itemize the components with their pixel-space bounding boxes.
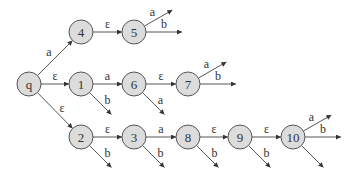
- transition-edge: a: [93, 69, 122, 84]
- state-label: 3: [131, 130, 138, 145]
- state-label: 10: [287, 130, 300, 145]
- edge-label: a: [150, 5, 156, 19]
- edge-label: a: [309, 110, 315, 124]
- state-node-3: 3: [122, 125, 146, 149]
- state-label: 6: [131, 77, 138, 92]
- state-node-7: 7: [176, 72, 200, 96]
- transition-edge: b: [200, 69, 236, 84]
- transition-edge: b: [248, 145, 270, 167]
- edge-label: ε: [52, 69, 57, 83]
- transition-edge: ε: [200, 122, 228, 137]
- state-label: 7: [185, 77, 192, 92]
- transition-edge: ε: [146, 69, 176, 84]
- state-node-6: 6: [122, 72, 146, 96]
- transition-edge: ε: [252, 122, 281, 137]
- transition-edge: a: [198, 57, 226, 78]
- state-label: 4: [78, 25, 85, 40]
- edge-label: b: [157, 146, 163, 160]
- transition-edge: b: [142, 145, 164, 167]
- transition-edge: ε: [93, 122, 122, 137]
- arrow-icon: [198, 62, 226, 78]
- edge-label: ε: [158, 69, 163, 83]
- state-node-10: 10: [281, 125, 305, 149]
- arrow-icon: [301, 145, 323, 167]
- state-label: q: [26, 77, 33, 92]
- transition-edge: ε: [93, 17, 122, 32]
- edge-label: a: [105, 69, 111, 83]
- edge-label: a: [158, 93, 164, 107]
- transition-edge: a: [144, 5, 172, 26]
- arrow-icon: [144, 10, 172, 26]
- edge-label: ε: [105, 17, 110, 31]
- edge-label: b: [104, 93, 110, 107]
- transition-edge: a: [146, 122, 176, 137]
- arrow-icon: [303, 115, 331, 131]
- state-label: 9: [237, 130, 244, 145]
- edge-label: b: [161, 17, 167, 31]
- arrow-icon: [37, 93, 72, 129]
- edge-label: a: [158, 122, 164, 136]
- state-label: 1: [78, 77, 85, 92]
- transition-edge: a: [303, 110, 331, 131]
- state-label: 8: [185, 130, 192, 145]
- transition-edge: b: [196, 145, 218, 167]
- edge-label: ε: [211, 122, 216, 136]
- transition-edge: ε: [37, 93, 72, 129]
- edge-label: b: [104, 146, 110, 160]
- state-node-1: 1: [69, 72, 93, 96]
- transition-edge: b: [89, 145, 111, 167]
- edge-label: ε: [105, 122, 110, 136]
- transition-edge: a: [142, 92, 164, 114]
- transition-edge: b: [146, 17, 182, 32]
- state-node-4: 4: [69, 20, 93, 44]
- state-node-q: q: [17, 72, 41, 96]
- edge-label: b: [263, 146, 269, 160]
- automaton-diagram: aεabεabεaabεεbabεbεbab q45167238910: [0, 0, 351, 179]
- state-node-5: 5: [122, 20, 146, 44]
- edge-label: b: [320, 122, 326, 136]
- state-label: 5: [131, 25, 138, 40]
- edge-label: a: [204, 57, 210, 71]
- edge-label: b: [215, 69, 221, 83]
- transition-edge: b: [89, 92, 111, 114]
- state-label: 2: [78, 130, 85, 145]
- edge-label: ε: [59, 101, 64, 115]
- edge-label: b: [211, 146, 217, 160]
- edge-label: a: [46, 45, 52, 59]
- transition-edge: b: [305, 122, 341, 137]
- transition-edge: ε: [41, 69, 69, 84]
- state-node-8: 8: [176, 125, 200, 149]
- edge-label: ε: [264, 122, 269, 136]
- transition-edge: [301, 145, 323, 167]
- state-node-9: 9: [228, 125, 252, 149]
- state-node-2: 2: [69, 125, 93, 149]
